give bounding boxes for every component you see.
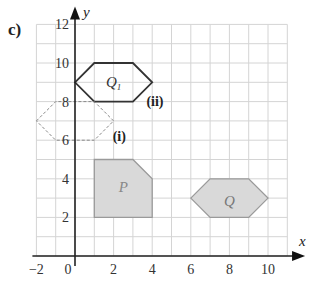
label-q: Q: [224, 193, 235, 209]
x-tick-label: 0: [65, 262, 72, 277]
x-axis-arrow-icon: [292, 251, 305, 261]
y-tick-label: 8: [62, 95, 69, 110]
x-tick-label: 2: [110, 262, 117, 277]
label-p: P: [118, 179, 128, 195]
x-axis-label: x: [298, 233, 306, 249]
x-tick-label: 4: [149, 262, 156, 277]
annotation-i: (i): [113, 129, 127, 145]
x-tick-labels: −20246810: [29, 262, 275, 277]
y-tick-label: 6: [62, 133, 69, 148]
y-tick-label: 12: [55, 17, 69, 32]
x-tick-label: 6: [187, 262, 194, 277]
coordinate-grid-figure: x y −20246810 24681012 P Q Q1 (i) (ii): [0, 0, 311, 282]
label-q1: Q1: [106, 74, 121, 92]
y-axis-label: y: [81, 4, 90, 20]
x-tick-label: −2: [29, 262, 44, 277]
y-axis-arrow-icon: [70, 7, 80, 20]
x-tick-label: 8: [226, 262, 233, 277]
x-tick-label: 10: [261, 262, 275, 277]
annotation-ii: (ii): [146, 94, 163, 110]
y-tick-label: 4: [62, 172, 69, 187]
y-tick-label: 2: [62, 210, 69, 225]
y-tick-label: 10: [55, 56, 69, 71]
